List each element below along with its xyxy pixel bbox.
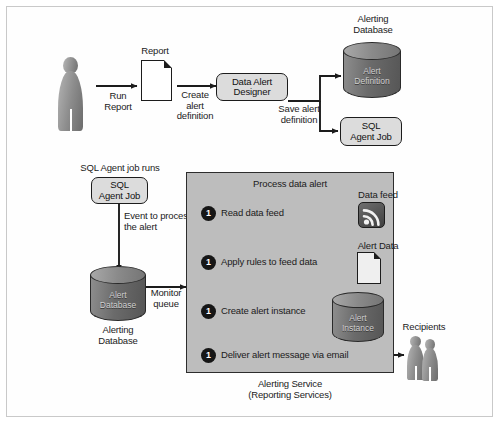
- step-label-3: Create alert instance: [221, 306, 331, 317]
- panel-title: Process data alert: [230, 179, 350, 190]
- step-label-4: Deliver alert message via email: [221, 350, 351, 361]
- label-report: Report: [128, 46, 182, 57]
- diagram-stage: Run Report Report Create alert definitio…: [0, 0, 501, 425]
- step-bullet-1: 1: [201, 206, 216, 221]
- alert-definition-database-icon: Alert Definition: [343, 42, 401, 98]
- label-monitor-queue: Monitor queue: [143, 288, 189, 309]
- label-recipients: Recipients: [393, 322, 455, 333]
- label-alert-data: Alert Data: [349, 241, 407, 252]
- rss-waves-icon: [359, 203, 386, 229]
- alert-database-icon: Alert Database: [90, 266, 146, 321]
- recipient-person-icon-2: [421, 339, 439, 381]
- label-data-feed: Data feed: [351, 190, 405, 201]
- step-bullet-2: 1: [201, 255, 216, 270]
- step-label-2: Apply rules to feed data: [221, 257, 341, 268]
- step-label-1: Read data feed: [221, 208, 331, 219]
- sql-agent-job-box-left[interactable]: SQL Agent Job: [91, 177, 148, 204]
- alert-instance-database-icon: Alert Instance: [332, 292, 384, 342]
- arrow-save-to-alert-definition: [288, 76, 341, 101]
- label-alerting-database-top: Alerting Database: [338, 14, 408, 35]
- label-save-alert-definition: Save alert definition: [268, 104, 330, 125]
- label-run-report: Run Report: [90, 91, 146, 112]
- alert-definition-cylinder-label: Alert Definition: [343, 67, 401, 86]
- step-bullet-3: 1: [201, 304, 216, 319]
- alert-instance-cylinder-label: Alert Instance: [332, 314, 384, 333]
- label-alerting-database-left: Alerting Database: [83, 325, 153, 346]
- alert-database-cylinder-label: Alert Database: [90, 291, 146, 310]
- sql-agent-job-box-top[interactable]: SQL Agent Job: [340, 117, 402, 146]
- alert-data-document-icon: [357, 252, 381, 284]
- actor-person-icon: [56, 57, 86, 131]
- label-create-alert-definition: Create alert definition: [169, 90, 221, 122]
- label-sql-agent-job-runs: SQL Agent job runs: [68, 163, 172, 174]
- step-bullet-4: 1: [201, 348, 216, 363]
- data-alert-designer-box[interactable]: Data Alert Designer: [216, 73, 288, 101]
- data-feed-rss-icon: [358, 202, 385, 228]
- report-document-icon: [141, 60, 172, 101]
- panel-caption: Alerting Service (Reporting Services): [225, 379, 355, 400]
